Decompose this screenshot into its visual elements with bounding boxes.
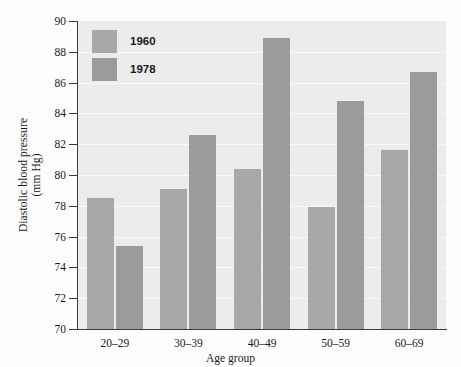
legend-swatch-1978 (92, 58, 117, 81)
legend-label-1978: 1978 (130, 63, 156, 75)
y-tick-mark (69, 113, 77, 114)
y-tick-label: 74 (22, 261, 66, 273)
bar-1960-60-69 (381, 150, 408, 329)
y-tick-label: 90 (22, 15, 66, 27)
y-tick-mark (69, 52, 77, 53)
y-tick-label: 82 (22, 138, 66, 150)
y-tick-label: 70 (22, 323, 66, 335)
y-tick-label: 80 (22, 169, 66, 181)
legend-item-1960: 1960 (92, 29, 156, 53)
y-tick-mark (69, 21, 77, 22)
y-tick-mark (69, 175, 77, 176)
y-tick-mark (69, 267, 77, 268)
bar-1960-40-49 (234, 169, 261, 329)
y-axis-ticks: 7072747678808284868890 (0, 0, 66, 367)
legend: 19601978 (92, 29, 156, 85)
y-tick-mark (69, 144, 77, 145)
legend-item-1978: 1978 (92, 57, 156, 81)
bar-1978-20-29 (116, 246, 143, 329)
legend-swatch-1960 (92, 30, 117, 53)
bar-1978-60-69 (410, 72, 437, 329)
y-tick-mark (69, 329, 77, 330)
y-tick-label: 86 (22, 77, 66, 89)
x-tick-label: 60–69 (395, 337, 424, 349)
x-axis-line (77, 329, 447, 330)
y-tick-label: 76 (22, 231, 66, 243)
legend-label-1960: 1960 (130, 35, 156, 47)
bar-1978-40-49 (263, 38, 290, 329)
x-tick-label: 20–29 (100, 337, 129, 349)
x-tick-label: 40–49 (248, 337, 277, 349)
bar-1978-30-39 (189, 135, 216, 329)
y-tick-label: 72 (22, 292, 66, 304)
bar-1978-50-59 (337, 101, 364, 329)
bar-1960-20-29 (87, 198, 114, 329)
y-tick-label: 84 (22, 107, 66, 119)
x-tick-label: 30–39 (174, 337, 203, 349)
y-tick-label: 78 (22, 200, 66, 212)
bar-1960-30-39 (160, 189, 187, 329)
bar-chart-figure: Diastolic blood pressure (mm Hg) 7072747… (0, 0, 461, 367)
x-tick-label: 50–59 (321, 337, 350, 349)
y-tick-mark (69, 206, 77, 207)
y-tick-mark (69, 83, 77, 84)
x-axis-title: Age group (0, 352, 461, 364)
y-tick-label: 88 (22, 46, 66, 58)
y-tick-mark (69, 298, 77, 299)
y-tick-mark (69, 237, 77, 238)
bar-1960-50-59 (308, 207, 335, 329)
